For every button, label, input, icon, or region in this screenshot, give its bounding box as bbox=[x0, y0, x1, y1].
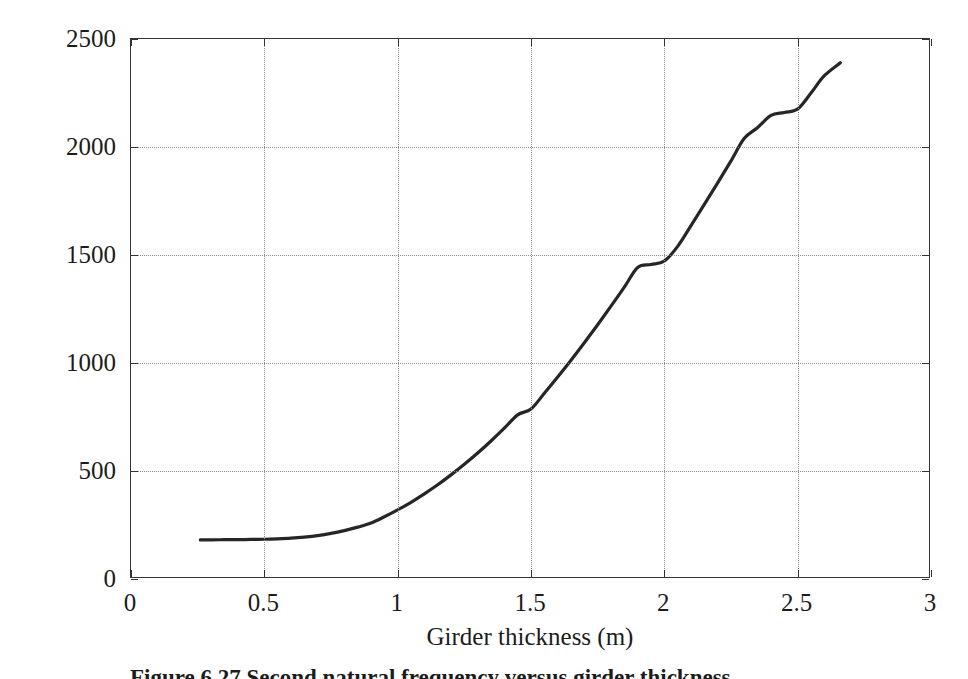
x-axis-tick bbox=[931, 570, 932, 577]
x-axis-tick bbox=[798, 39, 799, 46]
y-axis-tick bbox=[922, 255, 929, 256]
x-tick-label: 3 bbox=[924, 590, 937, 615]
x-tick-label: 2 bbox=[657, 590, 670, 615]
y-gridline bbox=[131, 255, 929, 256]
x-tick-label: 1 bbox=[390, 590, 403, 615]
y-tick-label: 2500 bbox=[0, 26, 116, 51]
x-axis-tick bbox=[664, 570, 665, 577]
figure-caption: Figure 6.27 Second natural frequency ver… bbox=[130, 664, 890, 679]
y-tick-label: 1000 bbox=[0, 350, 116, 375]
x-axis-tick bbox=[264, 570, 265, 577]
y-gridline bbox=[131, 363, 929, 364]
x-gridline bbox=[531, 39, 532, 577]
x-gridline bbox=[398, 39, 399, 577]
y-tick-label: 500 bbox=[0, 458, 116, 483]
x-tick-label: 2.5 bbox=[781, 590, 812, 615]
x-axis-tick bbox=[931, 39, 932, 46]
x-axis-tick bbox=[131, 39, 132, 46]
x-axis-tick bbox=[798, 570, 799, 577]
y-tick-label: 0 bbox=[0, 566, 116, 591]
y-axis-tick bbox=[922, 147, 929, 148]
x-tick-label: 0.5 bbox=[248, 590, 279, 615]
series-line-second-natural-frequency bbox=[200, 63, 840, 540]
y-axis-tick bbox=[922, 39, 929, 40]
x-axis-tick bbox=[531, 39, 532, 46]
y-axis-tick bbox=[131, 255, 138, 256]
y-gridline bbox=[131, 471, 929, 472]
y-axis-tick bbox=[131, 147, 138, 148]
y-gridline bbox=[131, 147, 929, 148]
y-tick-label: 2000 bbox=[0, 134, 116, 159]
figure-container: Second natural frequency (r/s) 00.511.52… bbox=[0, 0, 968, 679]
y-axis-tick bbox=[131, 579, 138, 580]
y-axis-tick bbox=[922, 579, 929, 580]
x-axis-label: Girder thickness (m) bbox=[130, 624, 930, 649]
x-tick-label: 0 bbox=[124, 590, 137, 615]
x-axis-tick bbox=[131, 570, 132, 577]
y-axis-tick bbox=[922, 471, 929, 472]
x-gridline bbox=[798, 39, 799, 577]
x-axis-tick bbox=[264, 39, 265, 46]
plot-area bbox=[130, 38, 930, 578]
y-axis-tick bbox=[131, 363, 138, 364]
x-tick-label: 1.5 bbox=[514, 590, 545, 615]
x-axis-tick bbox=[398, 570, 399, 577]
y-axis-tick bbox=[131, 471, 138, 472]
x-axis-tick bbox=[664, 39, 665, 46]
y-axis-tick bbox=[922, 363, 929, 364]
x-gridline bbox=[264, 39, 265, 577]
x-axis-tick bbox=[398, 39, 399, 46]
y-tick-label: 1500 bbox=[0, 242, 116, 267]
x-gridline bbox=[664, 39, 665, 577]
data-curve-svg bbox=[130, 38, 930, 578]
x-axis-tick bbox=[531, 570, 532, 577]
y-axis-tick bbox=[131, 39, 138, 40]
